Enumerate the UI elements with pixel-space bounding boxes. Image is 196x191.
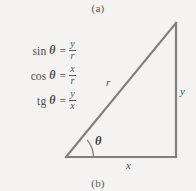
horizontal-side-label: x xyxy=(126,159,131,171)
trigonometry-figure: (a) sin θ = y r cos θ = x r tg θ = xyxy=(0,0,196,191)
angle-arc-icon xyxy=(87,140,93,157)
right-triangle-graphic xyxy=(0,0,196,191)
angle-theta-label: θ xyxy=(95,134,102,149)
vertical-side-label: y xyxy=(180,85,185,97)
triangle-hypotenuse-line xyxy=(66,23,176,157)
figure-caption-bottom: (b) xyxy=(0,177,196,189)
hypotenuse-label: r xyxy=(106,76,110,88)
